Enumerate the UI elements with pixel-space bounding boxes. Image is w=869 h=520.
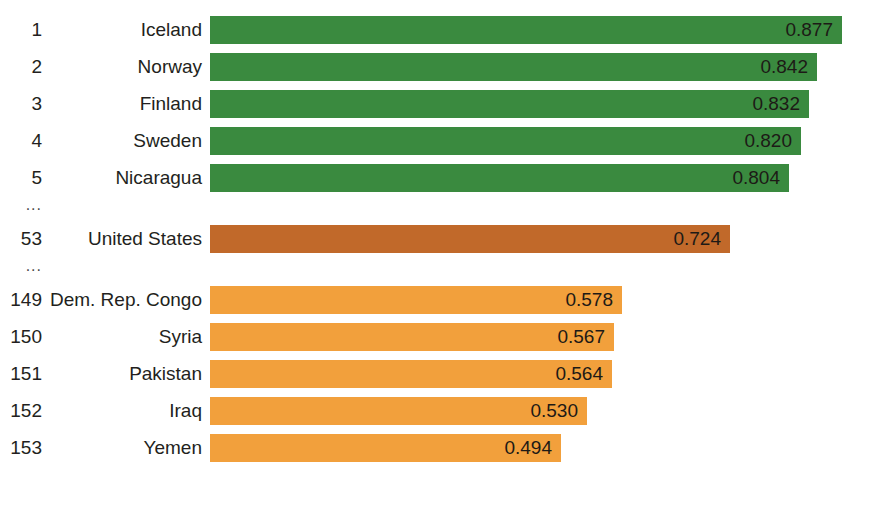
country-label: Pakistan <box>42 360 210 388</box>
bar-value-label: 0.494 <box>504 434 561 462</box>
bar: 0.877 <box>210 16 842 44</box>
country-label: Sweden <box>42 127 210 155</box>
bar-track: 0.820 <box>210 127 869 155</box>
bar: 0.820 <box>210 127 801 155</box>
bar: 0.578 <box>210 286 622 314</box>
bar-chart: 1Iceland0.8772Norway0.8423Finland0.8324S… <box>0 0 869 520</box>
rank-label: 149 <box>0 286 42 314</box>
bar-track: 0.877 <box>210 16 869 44</box>
bar-value-label: 0.567 <box>557 323 614 351</box>
chart-row: 2Norway0.842 <box>0 53 869 81</box>
chart-row: 150Syria0.567 <box>0 323 869 351</box>
country-label: United States <box>42 225 210 253</box>
country-label: Iceland <box>42 16 210 44</box>
rank-label: 1 <box>0 16 42 44</box>
bar: 0.564 <box>210 360 612 388</box>
bar: 0.832 <box>210 90 809 118</box>
chart-row: 152Iraq0.530 <box>0 397 869 425</box>
bar: 0.567 <box>210 323 614 351</box>
country-label: Norway <box>42 53 210 81</box>
country-label: Dem. Rep. Congo <box>42 286 210 314</box>
ellipsis-label: ... <box>0 196 42 214</box>
bar-track: 0.530 <box>210 397 869 425</box>
chart-row: 3Finland0.832 <box>0 90 869 118</box>
bar-track: 0.724 <box>210 225 869 253</box>
rank-label: 2 <box>0 53 42 81</box>
bar-value-label: 0.530 <box>530 397 587 425</box>
chart-row: 4Sweden0.820 <box>0 127 869 155</box>
rank-label: 151 <box>0 360 42 388</box>
bar-track: 0.567 <box>210 323 869 351</box>
bar-value-label: 0.564 <box>555 360 612 388</box>
bar: 0.530 <box>210 397 587 425</box>
rank-label: 3 <box>0 90 42 118</box>
bar-track: 0.494 <box>210 434 869 462</box>
rank-gap-ellipsis: ... <box>0 257 869 275</box>
chart-row: 53United States0.724 <box>0 225 869 253</box>
bar-track: 0.842 <box>210 53 869 81</box>
chart-row: 5Nicaragua0.804 <box>0 164 869 192</box>
country-label: Iraq <box>42 397 210 425</box>
chart-row: 149Dem. Rep. Congo0.578 <box>0 286 869 314</box>
bar: 0.494 <box>210 434 561 462</box>
bar-value-label: 0.832 <box>752 90 809 118</box>
rank-label: 5 <box>0 164 42 192</box>
country-label: Yemen <box>42 434 210 462</box>
chart-row: 151Pakistan0.564 <box>0 360 869 388</box>
bar-track: 0.564 <box>210 360 869 388</box>
bar: 0.842 <box>210 53 817 81</box>
bar-value-label: 0.724 <box>673 225 730 253</box>
country-label: Finland <box>42 90 210 118</box>
bar-value-label: 0.578 <box>565 286 622 314</box>
chart-row: 1Iceland0.877 <box>0 16 869 44</box>
bar: 0.724 <box>210 225 730 253</box>
rank-label: 53 <box>0 225 42 253</box>
bar-value-label: 0.804 <box>732 164 789 192</box>
rank-label: 150 <box>0 323 42 351</box>
bar-track: 0.832 <box>210 90 869 118</box>
rank-label: 153 <box>0 434 42 462</box>
country-label: Syria <box>42 323 210 351</box>
chart-row: 153Yemen0.494 <box>0 434 869 462</box>
bar-track: 0.578 <box>210 286 869 314</box>
rank-label: 152 <box>0 397 42 425</box>
bar-value-label: 0.842 <box>760 53 817 81</box>
bar: 0.804 <box>210 164 789 192</box>
rank-label: 4 <box>0 127 42 155</box>
rank-gap-ellipsis: ... <box>0 196 869 214</box>
ellipsis-label: ... <box>0 257 42 275</box>
bar-value-label: 0.820 <box>744 127 801 155</box>
country-label: Nicaragua <box>42 164 210 192</box>
bar-track: 0.804 <box>210 164 869 192</box>
bar-value-label: 0.877 <box>785 16 842 44</box>
